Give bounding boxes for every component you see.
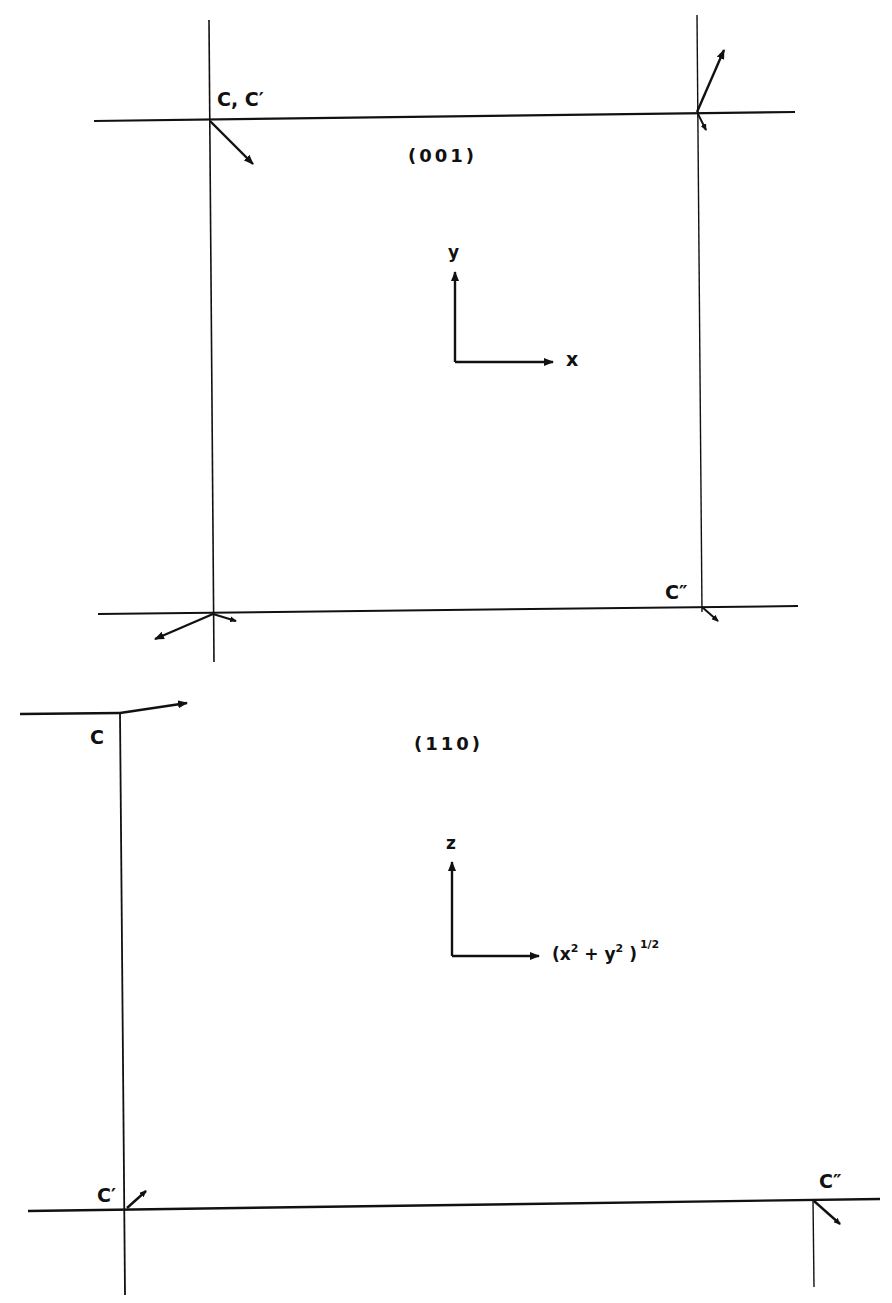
radial-axis-close: ) [623, 944, 637, 964]
corner-label-c-c-prime: C, C′ [217, 90, 264, 109]
small-vector-arrow-icon [814, 1201, 840, 1224]
z-axis-label: z [446, 835, 456, 852]
vector-arrow-icon [210, 121, 253, 164]
vector-arrow-icon [155, 614, 213, 639]
vector-arrow-icon [120, 703, 187, 713]
radial-axis-sup-y: 2 [616, 942, 624, 955]
corner-label-c-double-prime: C″ [665, 583, 687, 602]
corner-label-c: C [90, 728, 104, 747]
small-vector-arrow-icon [213, 614, 236, 621]
small-vector-arrow-icon [698, 114, 706, 130]
radial-axis-label: (x2 + y2 )1/2 [552, 946, 659, 963]
corner-label-c-double-prime: C″ [819, 1172, 841, 1191]
x-axis-label: x [566, 350, 578, 369]
right-boundary-line [813, 1199, 814, 1287]
radial-axis-base: (x [552, 944, 571, 964]
bottom-boundary-line [98, 606, 798, 614]
small-vector-arrow-icon [127, 1191, 146, 1208]
panel-110 [20, 703, 880, 1295]
top-boundary-line [94, 112, 795, 121]
plane-label-001: (001) [408, 147, 477, 165]
corner-label-c-prime: C′ [97, 1186, 116, 1205]
left-boundary-line [209, 20, 214, 662]
radial-axis-exponent: 1/2 [640, 938, 659, 951]
bottom-boundary-line [28, 1199, 880, 1211]
plane-label-110: (110) [414, 735, 483, 753]
left-boundary-line [120, 713, 125, 1295]
top-left-boundary-line [20, 713, 120, 714]
radial-axis-mid: + y [578, 944, 615, 964]
crystal-plane-diagram [0, 0, 892, 1303]
panel-001 [94, 15, 798, 662]
vector-arrow-icon [697, 50, 724, 112]
small-vector-arrow-icon [702, 607, 718, 621]
radial-axis-sup-x: 2 [571, 942, 579, 955]
y-axis-label: y [448, 244, 459, 261]
